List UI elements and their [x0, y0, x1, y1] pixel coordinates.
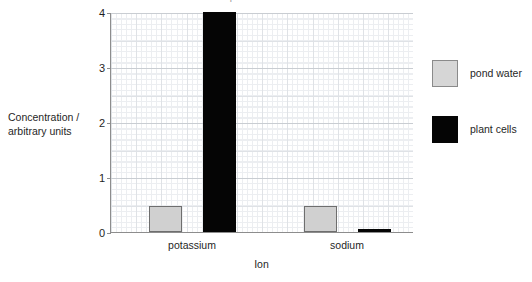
y-tick-1: 1 — [99, 172, 111, 184]
legend-swatch-plant-cells — [432, 116, 458, 143]
bar-potassium-plant-cells — [203, 12, 236, 232]
minor-gridlines — [111, 13, 413, 232]
y-axis-title-line-1: Concentration / — [8, 110, 104, 124]
y-axis-title-line-2: arbitrary units — [8, 124, 104, 138]
y-tick-2: 2 — [99, 117, 111, 129]
legend-item-plant-cells: plant cells — [432, 114, 528, 144]
bar-sodium-plant-cells — [358, 229, 391, 232]
legend-swatch-pond-water — [432, 60, 458, 87]
y-tick-0: 0 — [99, 227, 111, 239]
y-axis-title: Concentration / arbitrary units — [8, 110, 104, 138]
x-axis-title: Ion — [110, 258, 413, 270]
plot-area: 0 1 2 3 4 potassium sodium — [110, 13, 413, 233]
x-category-label-potassium: potassium — [168, 239, 216, 251]
legend-label-pond-water: pond water — [470, 67, 522, 79]
cut-off-title: osmosis and active transport — [110, 0, 330, 3]
legend-item-pond-water: pond water — [432, 58, 528, 88]
chart-legend: pond water plant cells — [432, 58, 528, 170]
legend-label-plant-cells: plant cells — [470, 123, 517, 135]
bar-sodium-pond-water — [304, 206, 337, 232]
medium-gridlines — [111, 13, 413, 232]
bar-potassium-pond-water — [149, 206, 182, 232]
y-tick-4: 4 — [99, 7, 111, 19]
y-tick-3: 3 — [99, 62, 111, 74]
major-gridlines — [111, 13, 413, 232]
x-category-label-sodium: sodium — [330, 239, 364, 251]
